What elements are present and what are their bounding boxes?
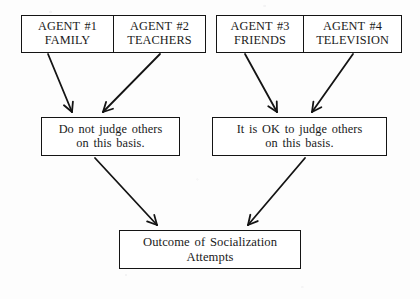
agent-box-television-title: AGENT #4: [323, 20, 382, 34]
agent-box-family: AGENT #1 FAMILY: [21, 15, 114, 53]
arrow-agent2-to-rule-left: [103, 54, 160, 112]
arrow-agent1-to-rule-left: [48, 54, 73, 112]
agent-box-friends-subtitle: FRIENDS: [234, 34, 286, 48]
agent-box-teachers-subtitle: TEACHERS: [127, 34, 191, 48]
outcome-box-socialization: Outcome of Socialization Attempts: [119, 230, 301, 269]
outcome-box-line1: Outcome of Socialization: [143, 235, 277, 249]
rule-box-do-not-judge-line1: Do not judge others: [59, 123, 163, 137]
agent-box-friends-title: AGENT #3: [230, 20, 289, 34]
outcome-box-line2: Attempts: [187, 250, 234, 264]
agent-box-family-title: AGENT #1: [38, 20, 97, 34]
agent-box-television-subtitle: TELEVISION: [316, 34, 389, 48]
agent-box-television: AGENT #4 TELEVISION: [303, 15, 402, 53]
rule-box-do-not-judge: Do not judge others on this basis.: [41, 117, 180, 156]
agent-box-family-subtitle: FAMILY: [45, 34, 91, 48]
rule-box-ok-to-judge: It is OK to judge others on this basis.: [212, 117, 387, 156]
arrow-rule-left-to-outcome: [95, 158, 157, 225]
rule-box-do-not-judge-line2: on this basis.: [76, 137, 144, 151]
rule-box-ok-to-judge-line2: on this basis.: [265, 137, 333, 151]
arrow-agent4-to-rule-right: [312, 54, 353, 112]
agent-box-teachers: AGENT #2 TEACHERS: [113, 15, 206, 53]
agent-box-teachers-title: AGENT #2: [130, 20, 189, 34]
arrow-agent3-to-rule-right: [245, 54, 277, 112]
arrow-rule-right-to-outcome: [248, 158, 305, 225]
socialization-diagram: AGENT #1 FAMILY AGENT #2 TEACHERS AGENT …: [0, 0, 420, 299]
agent-box-friends: AGENT #3 FRIENDS: [216, 15, 304, 53]
rule-box-ok-to-judge-line1: It is OK to judge others: [237, 123, 363, 137]
